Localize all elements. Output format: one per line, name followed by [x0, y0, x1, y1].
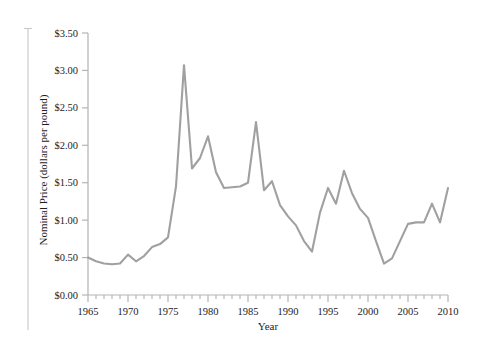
y-tick-label: $1.50 [54, 177, 78, 188]
x-tick-label: 1990 [278, 306, 299, 317]
y-tick-label: $2.50 [54, 102, 78, 113]
x-tick-label: 1970 [118, 306, 139, 317]
x-tick-label: 1975 [158, 306, 179, 317]
x-tick-label: 2005 [398, 306, 419, 317]
y-tick-label: $1.00 [54, 215, 78, 226]
left-frame-line [24, 28, 32, 330]
x-tick-label: 2000 [358, 306, 379, 317]
x-axis-tick-labels: 1965197019751980198519901995200020052010 [78, 306, 459, 317]
x-tick-label: 1980 [198, 306, 219, 317]
x-tick-label: 1985 [238, 306, 259, 317]
y-tick-label: $0.00 [54, 290, 78, 301]
x-tick-label: 2010 [438, 306, 459, 317]
series-line [88, 65, 448, 264]
x-tick-label: 1965 [78, 306, 99, 317]
nominal-price-line-chart: $0.00$0.50$1.00$1.50$2.00$2.50$3.00$3.50… [0, 0, 502, 352]
y-axis-title: Nominal Price (dollars per pound) [37, 94, 50, 245]
y-tick-label: $0.50 [54, 252, 78, 263]
y-tick-label: $3.00 [54, 65, 78, 76]
y-tick-label: $3.50 [54, 28, 78, 39]
y-axis-ticks [82, 33, 88, 295]
x-axis-title: Year [258, 320, 279, 332]
x-axis-ticks [88, 295, 448, 302]
chart-container: $0.00$0.50$1.00$1.50$2.00$2.50$3.00$3.50… [0, 0, 502, 352]
y-tick-label: $2.00 [54, 140, 78, 151]
x-tick-label: 1995 [318, 306, 339, 317]
y-axis-tick-labels: $0.00$0.50$1.00$1.50$2.00$2.50$3.00$3.50 [54, 28, 78, 301]
data-series-layer [88, 65, 448, 264]
